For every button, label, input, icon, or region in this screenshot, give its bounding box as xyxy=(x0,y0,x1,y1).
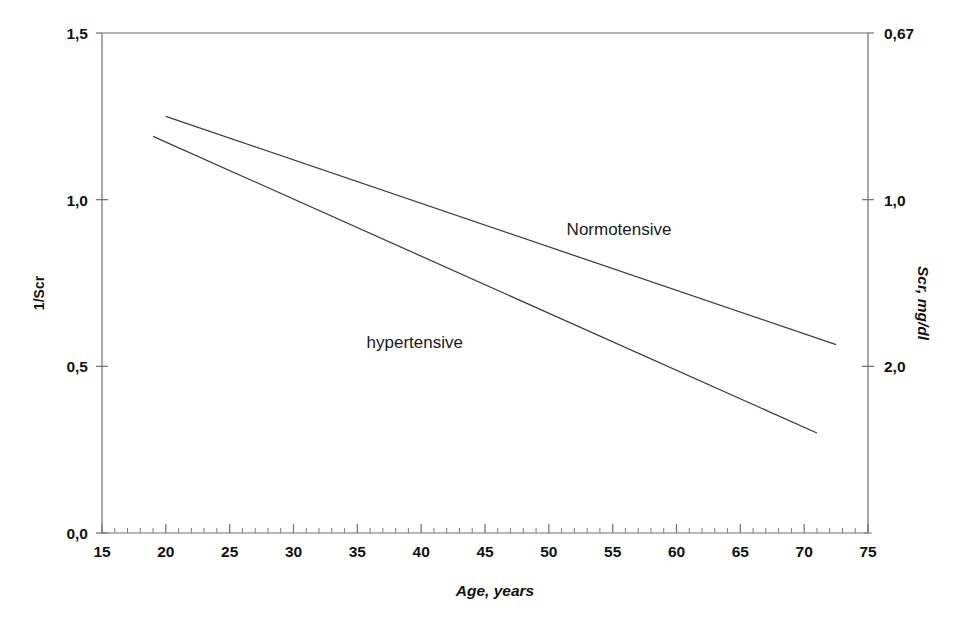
x-tick-label: 65 xyxy=(732,543,750,560)
y-tick-label-right: 0,67 xyxy=(884,25,914,42)
y-tick-label-left: 1,0 xyxy=(66,192,88,209)
x-tick-label: 35 xyxy=(349,543,367,560)
y-axis-title-right: Scr, mg/dl xyxy=(915,266,932,341)
x-tick-label: 70 xyxy=(796,543,813,560)
chart-canvas: 15202530354045505560657075 0,00,51,01,5 … xyxy=(0,0,965,623)
x-axis-ticks xyxy=(102,524,868,533)
chart-figure: 15202530354045505560657075 0,00,51,01,5 … xyxy=(0,0,965,623)
data-series-lines xyxy=(153,116,836,433)
x-tick-label: 40 xyxy=(413,543,430,560)
y-axis-left-tick-labels: 0,00,51,01,5 xyxy=(66,25,88,542)
x-tick-label: 15 xyxy=(93,543,111,560)
x-axis-tick-labels: 15202530354045505560657075 xyxy=(93,543,877,560)
x-axis-title: Age, years xyxy=(455,582,535,599)
x-tick-label: 25 xyxy=(221,543,239,560)
y-tick-label-left: 1,5 xyxy=(66,25,88,42)
y-axis-title-left: 1/Scr xyxy=(31,275,47,310)
y-tick-label-right: 2,0 xyxy=(884,358,906,375)
y-tick-label-left: 0,0 xyxy=(66,525,88,542)
x-tick-label: 55 xyxy=(604,543,622,560)
plot-frame xyxy=(102,33,868,533)
x-tick-label: 60 xyxy=(668,543,685,560)
series-annotations: Normotensivehypertensive xyxy=(367,220,672,352)
annotation-hypertensive: hypertensive xyxy=(367,333,463,352)
x-tick-label: 30 xyxy=(285,543,302,560)
x-tick-label: 50 xyxy=(540,543,557,560)
plot-frame-top-right xyxy=(102,33,868,533)
x-tick-label: 20 xyxy=(157,543,174,560)
x-tick-label: 75 xyxy=(859,543,877,560)
y-tick-label-left: 0,5 xyxy=(66,358,88,375)
x-tick-label: 45 xyxy=(476,543,494,560)
annotation-normotensive: Normotensive xyxy=(567,220,672,239)
series-line-normotensive xyxy=(166,116,836,344)
y-axis-right-tick-labels: 0,671,02,0 xyxy=(884,25,914,375)
y-tick-label-right: 1,0 xyxy=(884,192,906,209)
series-line-hypertensive xyxy=(153,136,817,433)
